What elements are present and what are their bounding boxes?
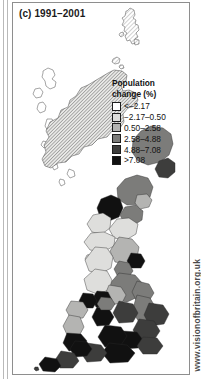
map-landmasses [33,8,175,372]
legend-title: Population change (%) [112,78,190,99]
legend-item: −2.17–0.50 [112,112,190,123]
legend-item: 0.50–2.58 [112,123,190,134]
legend-item: 4.88–7.08 [112,144,190,155]
legend-swatch-class-3 [112,123,121,132]
legend-swatch-class-6 [112,156,121,165]
page-gutter-rule-inner [7,0,8,379]
legend-item: <−2.17 [112,101,190,112]
legend-item: 2.58–4.88 [112,133,190,144]
legend-label-class-6: >7.08 [124,155,145,165]
region-scilly [34,367,39,371]
choropleth-map [13,3,188,375]
legend-swatch-class-2 [112,113,121,122]
legend-label-class-2: −2.17–0.50 [124,112,166,122]
map-svg [13,3,188,375]
legend-title-line2: change (%) [112,89,190,100]
legend-label-class-3: 0.50–2.58 [124,123,161,133]
legend-swatch-class-4 [112,134,121,143]
figure-panel: Population change (%) <−2.17 −2.17–0.50 … [0,0,201,379]
region-ayrshire [87,213,111,234]
region-shetland [119,8,139,45]
region-orkney [112,57,124,69]
page-gutter-rule-outer [3,0,4,379]
legend-title-line1: Population [112,78,190,89]
legend-label-class-4: 2.58–4.88 [124,134,161,144]
legend-swatch-class-5 [112,145,121,154]
legend-label-class-1: <−2.17 [124,101,150,111]
legend-label-class-5: 4.88–7.08 [124,145,161,155]
source-watermark: www.visionofbritain.org.uk [192,259,201,371]
legend-swatch-class-1 [112,102,121,111]
page-title: (c) 1991–2001 [19,8,85,19]
map-legend: Population change (%) <−2.17 −2.17–0.50 … [112,78,190,166]
legend-item: >7.08 [112,155,190,166]
